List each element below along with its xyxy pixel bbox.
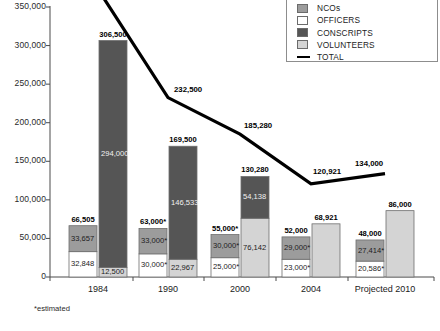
segment-value-label: 23,000* bbox=[284, 263, 310, 272]
bar-total-label: 130,280 bbox=[225, 165, 285, 174]
y-axis-tick-label: 100,000 bbox=[0, 194, 46, 204]
legend-item-officers: OFFICERS bbox=[297, 14, 437, 26]
x-axis-tick-label: Projected 2010 bbox=[330, 284, 440, 294]
y-axis-tick-label: 350,000 bbox=[0, 1, 46, 11]
segment-value-label: 32,848 bbox=[71, 259, 94, 268]
y-axis-tick-label: 0 bbox=[0, 271, 46, 281]
segment-value-label: 30,000* bbox=[141, 260, 167, 269]
segment-value-label: 33,657 bbox=[71, 234, 94, 243]
segment-value-label: 29,000* bbox=[284, 243, 310, 252]
bar-total-label: 63,000* bbox=[123, 217, 183, 226]
legend-item-label: CONSCRIPTS bbox=[317, 28, 373, 38]
bar-total-label: 86,000 bbox=[370, 200, 430, 209]
chart-container: 350,000300,000250,000200,000150,000100,0… bbox=[0, 0, 440, 331]
conscripts-swatch-icon bbox=[297, 28, 308, 37]
legend-item-conscripts: CONSCRIPTS bbox=[297, 27, 437, 39]
segment-value-label: 22,967 bbox=[171, 263, 194, 272]
segment-value-label: 25,000* bbox=[213, 262, 239, 271]
footnote: *estimated bbox=[34, 304, 70, 313]
officers-swatch-icon bbox=[297, 16, 308, 25]
y-axis-tick-label: 200,000 bbox=[0, 117, 46, 127]
legend-item-volunteers: VOLUNTEERS bbox=[297, 39, 437, 51]
total-line-swatch-icon bbox=[297, 56, 310, 58]
segment-value-label: 33,000* bbox=[141, 236, 167, 245]
total-line-value-label: 185,280 bbox=[244, 121, 272, 130]
volunteers-swatch-icon bbox=[297, 40, 308, 49]
y-axis-tick-label: 150,000 bbox=[0, 155, 46, 165]
bar-total-label: 52,000 bbox=[266, 226, 326, 235]
bar-total-label: 306,500 bbox=[83, 30, 143, 39]
legend-item-label: NCOs bbox=[317, 3, 340, 13]
bar-total-label: 169,500 bbox=[153, 135, 213, 144]
total-line-value-label: 134,000 bbox=[355, 159, 383, 168]
segment-value-label: 30,000* bbox=[213, 241, 239, 250]
legend-item-total: TOTAL bbox=[297, 51, 437, 63]
segment-value-label: 76,142 bbox=[243, 243, 266, 252]
bar-total-label: 66,505 bbox=[53, 215, 113, 224]
legend-item-label: VOLUNTEERS bbox=[317, 40, 375, 50]
total-line-value-label: 120,921 bbox=[313, 167, 341, 176]
legend-item-ncos: NCOs bbox=[297, 2, 437, 14]
segment-value-label: 146,533 bbox=[171, 198, 198, 207]
segment-value-label: 12,500 bbox=[101, 267, 124, 276]
segment-value-label: 20,586* bbox=[358, 264, 384, 273]
segment-value-label: 54,138 bbox=[243, 192, 266, 201]
y-axis-tick-label: 50,000 bbox=[0, 232, 46, 242]
bar-total-label: 68,921 bbox=[296, 213, 356, 222]
segment-value-label: 294,000 bbox=[101, 149, 128, 158]
bar-total-label: 48,000 bbox=[340, 229, 400, 238]
y-axis-tick-label: 300,000 bbox=[0, 40, 46, 50]
segment-value-label: 27,414* bbox=[358, 246, 384, 255]
legend-item-label: TOTAL bbox=[317, 52, 344, 62]
legend-item-label: OFFICERS bbox=[317, 15, 360, 25]
nco-swatch-icon bbox=[297, 4, 308, 13]
bar-total-label: 55,000* bbox=[195, 224, 255, 233]
y-axis-tick-label: 250,000 bbox=[0, 78, 46, 88]
total-line-value-label: 232,500 bbox=[174, 85, 202, 94]
chart-legend: NCOsOFFICERSCONSCRIPTSVOLUNTEERSTOTAL bbox=[286, 0, 438, 62]
